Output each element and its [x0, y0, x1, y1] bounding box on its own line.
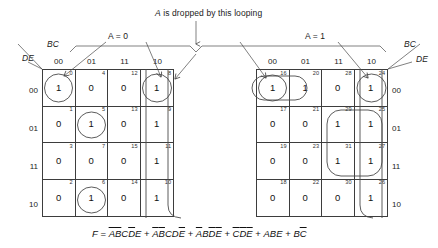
kmap-cell-m14: 140 [108, 180, 141, 217]
minterm-index: 7 [102, 143, 105, 150]
cell-value: 1 [355, 83, 388, 93]
kmap-cell-m13: 130 [108, 107, 141, 144]
cell-value: 1 [76, 193, 108, 203]
right-map-row-header-11: 11 [392, 162, 416, 172]
minterm-index: 23 [313, 143, 319, 150]
minterm-index: 26 [379, 179, 385, 186]
left-map-de-axis-label: DE [22, 53, 34, 63]
minterm-index: 5 [102, 106, 105, 113]
minterm-index: 21 [313, 106, 319, 113]
a-range-brackets [70, 46, 386, 52]
drop-note-label: A is dropped by this looping [155, 8, 262, 18]
kmap-figure: A is dropped by this looping A = 0 A = 1… [0, 0, 438, 248]
kmap-cell-m26: 261 [355, 180, 388, 217]
minterm-index: 14 [131, 179, 137, 186]
equation-term: CDE [233, 228, 253, 239]
kmap-cell-m22: 220 [290, 180, 323, 217]
minterm-index: 29 [345, 106, 351, 113]
minterm-index: 1 [69, 106, 72, 113]
cell-value: 1 [141, 193, 174, 203]
minterm-index: 2 [69, 179, 72, 186]
equation-equals-sign: = [98, 228, 109, 239]
cell-value: 0 [43, 193, 75, 203]
cell-value: 0 [257, 119, 289, 129]
kmap-cell-m16: 161 [257, 70, 290, 107]
cell-value: 0 [108, 156, 140, 166]
kmap-cell-m7: 70 [76, 143, 109, 180]
kmap-cell-m31: 311 [322, 143, 355, 180]
minterm-index: 9 [168, 106, 171, 113]
right-map-col-header-00: 00 [256, 57, 289, 67]
kmap-cell-m25: 251 [355, 107, 388, 144]
cell-value: 0 [43, 119, 75, 129]
minterm-index: 31 [345, 143, 351, 150]
minterm-index: 15 [131, 143, 137, 150]
boolean-equation: F = ABCDE + ABCDE + ABDE + CDE + ABE + B… [92, 228, 307, 239]
cell-value: 1 [355, 119, 388, 129]
cell-value: 0 [43, 156, 75, 166]
right-map-row-header-01: 01 [392, 124, 416, 134]
equation-term: ABCDE [109, 228, 142, 239]
kmap-cell-m1: 10 [43, 107, 76, 144]
cell-value: 0 [322, 193, 354, 203]
minterm-index: 25 [379, 106, 385, 113]
minterm-index: 30 [345, 179, 351, 186]
equation-plus-sign: + [185, 228, 196, 239]
cell-value: 0 [76, 156, 108, 166]
kmap-cell-m30: 300 [322, 180, 355, 217]
right-map-de-axis-label: DE [416, 54, 428, 64]
minterm-index: 13 [131, 106, 137, 113]
kmap-cell-m20: 201 [290, 70, 323, 107]
minterm-index: 8 [168, 70, 171, 77]
equation-plus-sign: + [283, 228, 294, 239]
cell-value: 1 [141, 83, 174, 93]
equation-plus-sign: + [222, 228, 233, 239]
minterm-index: 22 [313, 179, 319, 186]
kmap-cell-m5: 51 [76, 107, 109, 144]
cell-value: 0 [257, 156, 289, 166]
cell-value: 0 [76, 83, 108, 93]
right-map-col-header-10: 10 [355, 57, 388, 67]
cell-value: 0 [108, 83, 140, 93]
kmap-cell-m12: 120 [108, 70, 141, 107]
kmap-cell-m24: 241 [355, 70, 388, 107]
left-map-row-header-01: 01 [14, 124, 38, 134]
kmap-cell-m9: 91 [141, 107, 174, 144]
kmap-cell-m28: 280 [322, 70, 355, 107]
minterm-index: 17 [280, 106, 286, 113]
kmap-cell-m0: 01 [43, 70, 76, 107]
minterm-index: 28 [345, 70, 351, 77]
cell-value: 0 [290, 156, 322, 166]
equation-term: ABE [264, 228, 283, 239]
cell-value: 0 [290, 119, 322, 129]
a-equals-one-label: A = 1 [305, 31, 325, 41]
cell-value: 1 [141, 156, 174, 166]
equation-literal: C [300, 228, 307, 239]
equation-term: BC [293, 228, 306, 239]
kmap-cell-m19: 190 [257, 143, 290, 180]
kmap-cell-m18: 180 [257, 180, 290, 217]
minterm-index: 12 [131, 70, 137, 77]
kmap-cell-m4: 40 [76, 70, 109, 107]
minterm-index: 6 [102, 179, 105, 186]
left-map-row-header-00: 00 [14, 86, 38, 96]
cell-value: 0 [290, 193, 322, 203]
minterm-index: 4 [102, 70, 105, 77]
kmap-cell-m27: 271 [355, 143, 388, 180]
equation-literal: D [172, 228, 179, 239]
kmap-cell-m29: 291 [322, 107, 355, 144]
left-map-col-header-10: 10 [141, 57, 174, 67]
right-map-col-header-11: 11 [322, 57, 355, 67]
cell-value: 0 [322, 83, 354, 93]
drop-note-rest: is dropped by this looping [161, 8, 262, 18]
cell-value: 0 [108, 119, 140, 129]
kmap-cell-m15: 150 [108, 143, 141, 180]
equation-term: ABDE [196, 228, 222, 239]
kmap-cell-m3: 30 [43, 143, 76, 180]
kmap-cell-m23: 230 [290, 143, 323, 180]
left-map-grid: 01401208110511309130701501112061140101 [42, 69, 174, 217]
cell-value: 0 [257, 193, 289, 203]
cell-value: 0 [108, 193, 140, 203]
left-map-row-header-11: 11 [14, 162, 38, 172]
cell-value: 1 [76, 119, 108, 129]
